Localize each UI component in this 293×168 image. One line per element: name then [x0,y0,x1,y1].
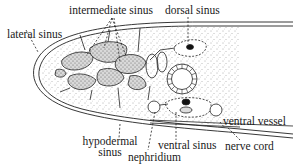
label-nephridium: nephridium [128,151,181,163]
label-intermediate-sinus: intermediate sinus [69,4,153,16]
label-ventral-sinus: ventral sinus [158,139,216,151]
label-ventral-vessel: ventral vessel [223,115,286,127]
diagram-canvas: intermediate sinus dorsal sinus lateral … [0,0,293,168]
label-lateral-sinus: lateral sinus [7,28,62,40]
label-nerve-cord: nerve cord [225,140,274,152]
gut [167,64,197,94]
label-dorsal-sinus: dorsal sinus [165,4,220,16]
